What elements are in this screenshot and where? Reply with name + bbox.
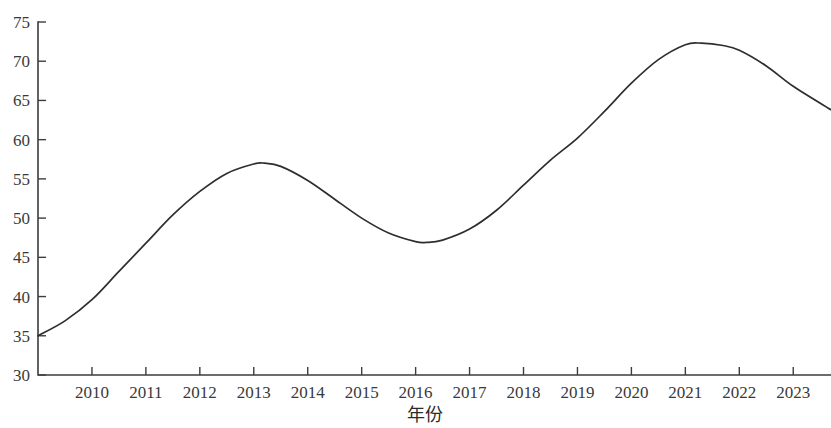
y-tick-label: 35 — [13, 327, 30, 346]
y-tick-label: 30 — [13, 366, 30, 385]
line-chart: 30354045505560657075 2010201120122013201… — [0, 0, 831, 428]
y-tick-label: 75 — [13, 13, 30, 32]
x-tick-label: 2014 — [291, 383, 326, 402]
plot-background — [0, 0, 831, 428]
x-tick-label: 2016 — [399, 383, 433, 402]
y-tick-label: 40 — [13, 288, 30, 307]
x-axis-title: 年份 — [407, 405, 443, 425]
y-tick-label: 45 — [13, 248, 30, 267]
x-tick-label: 2015 — [345, 383, 379, 402]
x-tick-label: 2013 — [237, 383, 271, 402]
y-tick-label: 55 — [13, 170, 30, 189]
x-tick-label: 2021 — [668, 383, 702, 402]
y-tick-label: 50 — [13, 209, 30, 228]
x-tick-label: 2020 — [614, 383, 648, 402]
y-tick-label: 65 — [13, 91, 30, 110]
chart-canvas: 30354045505560657075 2010201120122013201… — [0, 0, 831, 428]
x-tick-label: 2019 — [560, 383, 594, 402]
y-tick-label: 60 — [13, 131, 30, 150]
y-tick-label: 70 — [13, 52, 30, 71]
x-tick-label: 2012 — [183, 383, 217, 402]
x-tick-label: 2010 — [75, 383, 109, 402]
x-tick-label: 2023 — [776, 383, 810, 402]
x-tick-label: 2022 — [722, 383, 756, 402]
x-tick-label: 2017 — [453, 383, 488, 402]
x-tick-label: 2011 — [129, 383, 162, 402]
x-tick-label: 2018 — [507, 383, 541, 402]
